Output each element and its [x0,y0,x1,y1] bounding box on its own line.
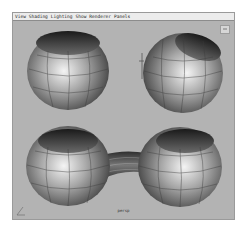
camera-label: persp [117,208,129,213]
menu-renderer[interactable]: Renderer [89,13,111,20]
sphere-bottom-left[interactable] [26,126,110,206]
view-cube[interactable] [220,25,230,34]
panel-menubar: View Shading Lighting Show Renderer Pane… [13,13,234,21]
sphere-top-left[interactable] [27,31,109,110]
menu-view[interactable]: View [15,13,26,20]
viewport-panel: View Shading Lighting Show Renderer Pane… [12,12,235,220]
scene-canvas[interactable] [13,21,234,219]
sphere-top-right[interactable] [139,28,225,113]
axis-indicator [17,207,25,215]
menu-shading[interactable]: Shading [29,13,48,20]
menu-panels[interactable]: Panels [114,13,130,20]
3d-viewport[interactable]: persp [13,21,234,219]
menu-show[interactable]: Show [76,13,87,20]
sphere-bottom-right[interactable] [138,127,222,207]
menu-lighting[interactable]: Lighting [51,13,73,20]
